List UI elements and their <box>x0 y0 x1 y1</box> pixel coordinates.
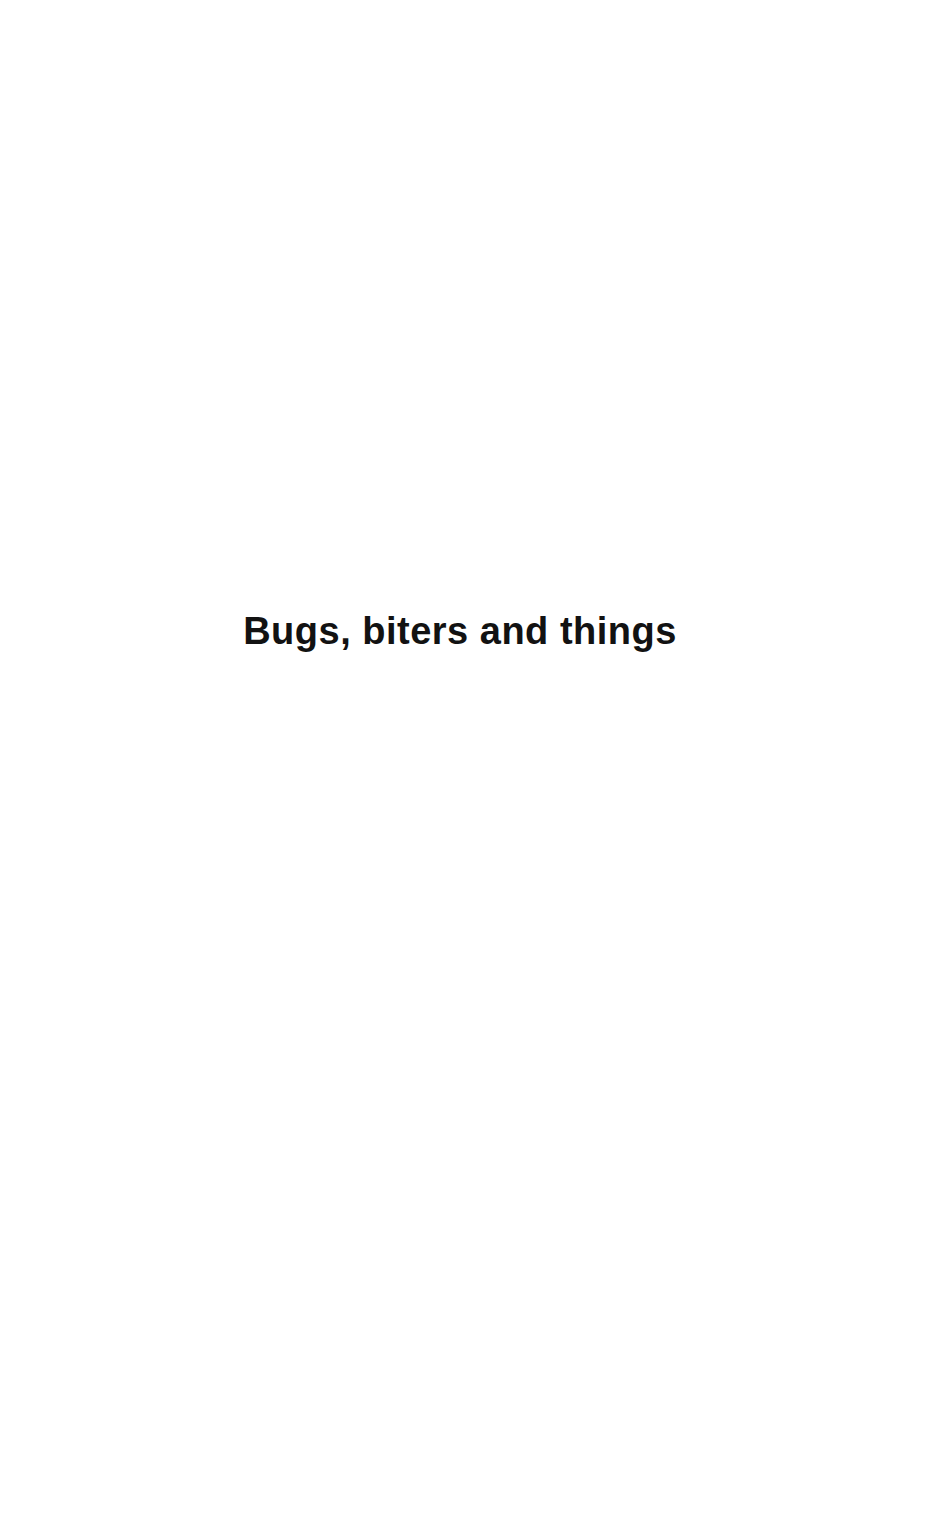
scanned-page: Bugs, biters and things <box>0 0 930 1529</box>
page-title: Bugs, biters and things <box>0 610 920 653</box>
